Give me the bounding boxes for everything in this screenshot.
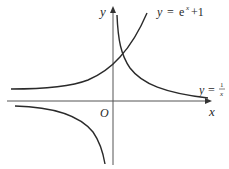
y-axis-arrow-icon bbox=[110, 6, 116, 13]
recip-label-y: y bbox=[198, 83, 205, 97]
y-axis-label: y bbox=[98, 4, 106, 19]
exp-label-eq: = bbox=[167, 5, 174, 19]
exp-label-e: e bbox=[179, 5, 184, 19]
recip-label-den: x bbox=[219, 90, 224, 98]
exp-curve bbox=[11, 13, 147, 89]
reciprocal-curve-branch-positive bbox=[117, 15, 208, 98]
exp-label-sup: x bbox=[185, 4, 190, 12]
recip-label-eq: = bbox=[208, 83, 215, 97]
y-axis bbox=[110, 6, 116, 165]
reciprocal-curve-label: y = 1 x bbox=[198, 81, 225, 98]
reciprocal-curve-branch-negative bbox=[15, 106, 105, 164]
x-axis bbox=[7, 98, 212, 104]
exp-curve-label: y = e x +1 bbox=[156, 4, 204, 19]
exp-label-tail: +1 bbox=[191, 5, 204, 19]
function-graph: y x O y = e x +1 y = 1 x bbox=[0, 0, 229, 169]
exp-label-y: y bbox=[156, 5, 163, 19]
recip-label-num: 1 bbox=[220, 81, 224, 89]
origin-label: O bbox=[100, 106, 109, 120]
x-axis-label: x bbox=[208, 104, 215, 119]
